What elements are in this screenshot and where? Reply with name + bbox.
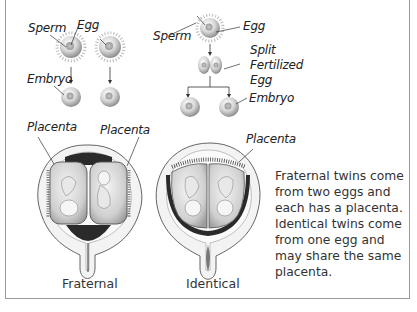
description-line: each has a placenta. bbox=[275, 200, 405, 216]
caption-identical: Identical bbox=[186, 276, 240, 291]
label-fraternal-sperm: Sperm bbox=[28, 22, 66, 35]
description-line: Fraternal twins come bbox=[275, 168, 405, 184]
identical-egg bbox=[197, 15, 223, 41]
label-identical-egg: Egg bbox=[243, 20, 265, 33]
label-placenta-identical: Placenta bbox=[246, 133, 296, 146]
identical-embryo-1 bbox=[180, 97, 200, 117]
label-fertilized: Fertilized bbox=[250, 59, 303, 72]
fraternal-embryo-2 bbox=[100, 87, 120, 107]
fraternal-egg-2 bbox=[96, 33, 124, 61]
description-line: may share the same bbox=[275, 248, 405, 264]
fraternal-uterus bbox=[38, 145, 142, 279]
label-split-egg: Egg bbox=[250, 74, 272, 87]
label-split: Split bbox=[250, 44, 276, 57]
label-identical-embryo: Embryo bbox=[249, 92, 294, 105]
description-line: placenta. bbox=[275, 264, 405, 280]
label-fraternal-egg: Egg bbox=[77, 19, 99, 32]
description-line: from one egg and bbox=[275, 232, 405, 248]
fraternal-embryo-1 bbox=[61, 87, 81, 107]
label-placenta-fraternal-1: Placenta bbox=[27, 121, 77, 134]
fraternal-egg-1 bbox=[57, 33, 85, 61]
split-fertilized-egg bbox=[198, 56, 222, 74]
description-text: Fraternal twins come from two eggs and e… bbox=[275, 168, 405, 280]
label-placenta-fraternal-2: Placenta bbox=[100, 124, 150, 137]
description-line: Identical twins come bbox=[275, 216, 405, 232]
identical-embryo-2 bbox=[219, 97, 239, 117]
identical-uterus bbox=[156, 143, 260, 279]
label-fraternal-embryo: Embryo bbox=[27, 73, 72, 86]
label-identical-sperm: Sperm bbox=[153, 30, 191, 43]
description-line: from two eggs and bbox=[275, 184, 405, 200]
caption-fraternal: Fraternal bbox=[62, 276, 118, 291]
